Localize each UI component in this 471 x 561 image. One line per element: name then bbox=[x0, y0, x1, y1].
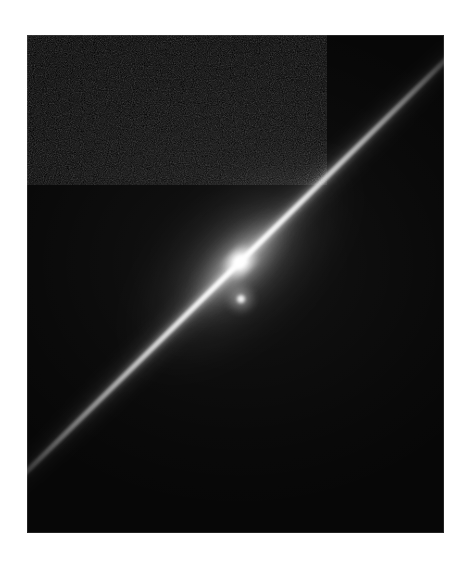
astronomical-image-frame bbox=[27, 35, 444, 533]
figure-page bbox=[0, 0, 471, 561]
point-source-core bbox=[236, 294, 245, 303]
detector-noise-dark bbox=[27, 35, 327, 185]
point-source bbox=[226, 284, 256, 314]
